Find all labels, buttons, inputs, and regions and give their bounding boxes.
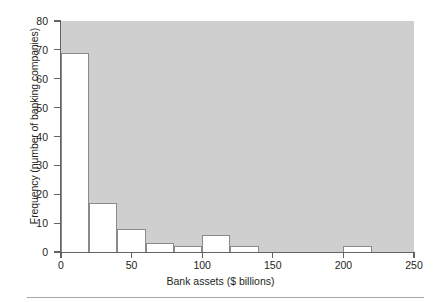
- y-tick-mark: [54, 165, 60, 166]
- y-tick-mark: [54, 49, 60, 50]
- y-tick-label: 10: [0, 217, 48, 229]
- x-tick-mark: [131, 252, 132, 258]
- x-tick-label: 150: [253, 259, 293, 271]
- y-tick-mark: [54, 223, 60, 224]
- y-tick-label: 70: [0, 44, 48, 56]
- y-tick-label: 80: [0, 15, 48, 27]
- x-tick-mark: [202, 252, 203, 258]
- x-tick-mark: [413, 252, 414, 258]
- histogram-bar: [146, 243, 174, 252]
- y-tick-mark: [54, 251, 60, 252]
- histogram-bar: [230, 246, 258, 252]
- y-tick-label: 40: [0, 131, 48, 143]
- histogram-bar: [117, 229, 145, 252]
- y-tick-mark: [54, 136, 60, 137]
- histogram-bar: [343, 246, 371, 252]
- y-tick-label: 60: [0, 73, 48, 85]
- x-tick-mark: [272, 252, 273, 258]
- x-axis-title: Bank assets ($ billions): [0, 275, 441, 287]
- y-tick-mark: [54, 107, 60, 108]
- x-tick-mark: [343, 252, 344, 258]
- x-tick-label: 250: [394, 259, 434, 271]
- x-tick-mark: [60, 252, 61, 258]
- x-tick-label: 200: [323, 259, 363, 271]
- y-tick-mark: [54, 194, 60, 195]
- y-tick-label: 0: [0, 246, 48, 258]
- histogram-bar: [89, 203, 117, 252]
- histogram-bar: [174, 246, 202, 252]
- y-tick-label: 20: [0, 188, 48, 200]
- histogram-bar: [61, 53, 89, 252]
- y-tick-label: 30: [0, 159, 48, 171]
- footer-rule: [27, 297, 424, 298]
- histogram-bar: [202, 235, 230, 252]
- y-tick-mark: [54, 20, 60, 21]
- x-tick-label: 50: [112, 259, 152, 271]
- x-tick-label: 0: [41, 259, 81, 271]
- x-tick-label: 100: [182, 259, 222, 271]
- y-tick-label: 50: [0, 102, 48, 114]
- y-tick-mark: [54, 78, 60, 79]
- histogram-figure: Frequency (number of banking companies) …: [0, 0, 441, 302]
